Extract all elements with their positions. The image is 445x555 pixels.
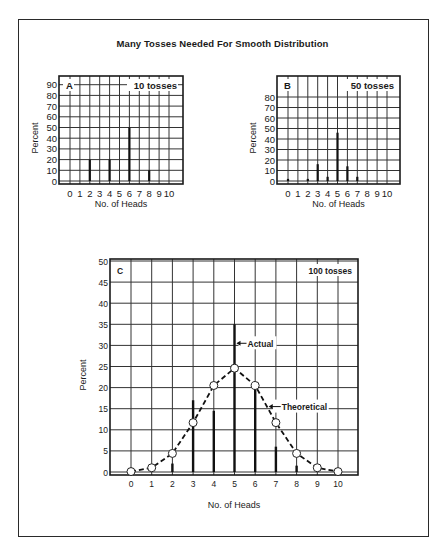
theoretical-marker [168, 449, 176, 457]
x-tick-label: 8 [147, 188, 152, 199]
x-tick-label: 4 [107, 188, 112, 199]
bar [307, 179, 309, 181]
bar [128, 128, 130, 182]
x-tick-label: 1 [77, 188, 82, 199]
tosses-annotation: 10 tosses [134, 80, 177, 91]
bar [171, 464, 173, 472]
bar [254, 388, 256, 472]
panel-letter: B [284, 80, 291, 91]
y-tick-label: 80 [264, 92, 275, 103]
y-tick-label: 40 [99, 299, 109, 309]
x-tick-label: 8 [294, 479, 299, 489]
y-tick-label: 30 [264, 144, 275, 155]
theoretical-marker [334, 468, 342, 476]
y-tick-label: 90 [46, 79, 57, 90]
y-tick-label: 70 [46, 101, 57, 112]
x-tick-label: 7 [137, 188, 142, 199]
bar [275, 447, 277, 472]
bar [192, 400, 194, 472]
bar [148, 170, 150, 181]
theoretical-marker [313, 464, 321, 472]
y-tick-label: 30 [46, 143, 57, 154]
tosses-annotation: 100 tosses [309, 266, 353, 276]
y-tick-label: 40 [264, 134, 275, 145]
y-axis-title: Percent [248, 122, 258, 154]
y-tick-label: 10 [99, 425, 109, 435]
panel-letter: C [117, 266, 123, 276]
x-tick-label: 7 [355, 188, 360, 199]
x-tick-label: 3 [315, 188, 320, 199]
bar [317, 164, 319, 181]
x-tick-label: 10 [382, 188, 393, 199]
x-tick-label: 5 [232, 479, 237, 489]
x-axis-title: No. of Heads [312, 199, 365, 209]
theoretical-marker [251, 381, 259, 389]
y-tick-label: 30 [99, 341, 109, 351]
y-tick-label: 50 [99, 257, 109, 267]
x-tick-label: 5 [335, 188, 340, 199]
x-tick-label: 8 [365, 188, 370, 199]
x-tick-label: 3 [97, 188, 102, 199]
theoretical-marker [127, 468, 135, 476]
y-tick-label: 50 [46, 122, 57, 133]
x-tick-label: 6 [127, 188, 132, 199]
x-axis-title: No. of Heads [208, 500, 261, 510]
theoretical-label: Theoretical [282, 402, 327, 412]
chart-panel-b: 01020304050607080012345678910No. of Head… [248, 76, 400, 209]
bar [295, 466, 297, 472]
bar [233, 324, 235, 472]
y-tick-label: 60 [264, 113, 275, 124]
tosses-annotation: 50 tosses [351, 80, 394, 91]
y-tick-label: 20 [99, 383, 109, 393]
theoretical-marker [231, 364, 239, 372]
x-tick-label: 3 [191, 479, 196, 489]
x-tick-label: 10 [164, 188, 175, 199]
bar [109, 160, 111, 181]
x-tick-label: 6 [345, 188, 350, 199]
bar [213, 411, 215, 472]
y-tick-label: 15 [99, 404, 109, 414]
y-tick-label: 20 [264, 155, 275, 166]
y-tick-label: 40 [46, 133, 57, 144]
y-tick-label: 0 [103, 468, 108, 478]
x-tick-label: 5 [117, 188, 122, 199]
y-tick-label: 35 [99, 320, 109, 330]
y-tick-label: 60 [46, 111, 57, 122]
y-tick-label: 0 [270, 176, 275, 187]
charts-canvas: 0102030405060708090012345678910No. of He… [0, 0, 445, 555]
plot-frame [59, 76, 183, 184]
y-tick-label: 70 [264, 102, 275, 113]
x-tick-label: 2 [87, 188, 92, 199]
y-tick-label: 80 [46, 90, 57, 101]
x-tick-label: 2 [170, 479, 175, 489]
x-tick-label: 10 [333, 479, 343, 489]
y-tick-label: 20 [46, 154, 57, 165]
x-tick-label: 1 [295, 188, 300, 199]
x-tick-label: 4 [325, 188, 330, 199]
bar [89, 160, 91, 181]
y-tick-label: 25 [99, 362, 109, 372]
y-tick-label: 10 [264, 165, 275, 176]
x-tick-label: 9 [156, 188, 161, 199]
bar [287, 179, 289, 181]
chart-panel-a: 0102030405060708090012345678910No. of He… [30, 76, 183, 209]
bar [327, 177, 329, 181]
x-tick-label: 7 [274, 479, 279, 489]
x-tick-label: 1 [149, 479, 154, 489]
theoretical-marker [272, 419, 280, 427]
bar [336, 133, 338, 181]
theoretical-marker [148, 464, 156, 472]
y-tick-label: 5 [103, 446, 108, 456]
theoretical-marker [189, 419, 197, 427]
x-tick-label: 6 [253, 479, 258, 489]
x-tick-label: 0 [67, 188, 72, 199]
x-axis-title: No. of Heads [95, 199, 148, 209]
theoretical-marker [293, 449, 301, 457]
x-tick-label: 4 [211, 479, 216, 489]
actual-label: Actual [248, 339, 274, 349]
bar [346, 166, 348, 181]
chart-panel-c: 05101520253035404550012345678910No. of H… [78, 257, 358, 511]
y-tick-label: 50 [264, 123, 275, 134]
y-axis-title: Percent [30, 122, 40, 154]
theoretical-marker [210, 381, 218, 389]
